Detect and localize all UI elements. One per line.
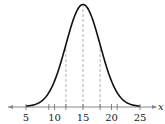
tick-label-25: 25 [134, 112, 147, 123]
left-arrow-icon [8, 105, 13, 109]
x-axis-label: x [158, 101, 164, 112]
tick-label-10: 10 [48, 112, 61, 123]
tick-label-20: 20 [105, 112, 118, 123]
dashed-reference-lines [66, 5, 100, 108]
normal-distribution-chart: 510152025 x [0, 0, 165, 124]
x-axis-tick-labels: 510152025 [23, 112, 147, 123]
tick-label-5: 5 [23, 112, 29, 123]
tick-label-15: 15 [77, 112, 90, 123]
right-arrow-icon [152, 105, 157, 109]
